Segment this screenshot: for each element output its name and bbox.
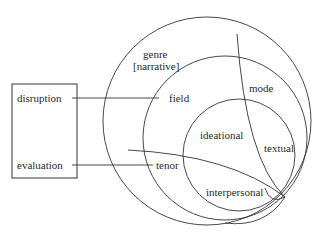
ideational-label: ideational bbox=[200, 130, 243, 141]
box-item-disruption: disruption bbox=[17, 93, 62, 104]
diagram-canvas bbox=[0, 0, 324, 242]
field-label: field bbox=[169, 93, 189, 104]
mode-label: mode bbox=[249, 83, 273, 94]
genre-label: genre bbox=[143, 49, 167, 60]
box-item-evaluation: evaluation bbox=[17, 160, 63, 171]
genre-type-label: [narrative] bbox=[133, 61, 179, 72]
textual-label: textual bbox=[264, 143, 294, 154]
interpersonal-label: interpersonal bbox=[206, 187, 263, 198]
tenor-label: tenor bbox=[156, 160, 179, 171]
